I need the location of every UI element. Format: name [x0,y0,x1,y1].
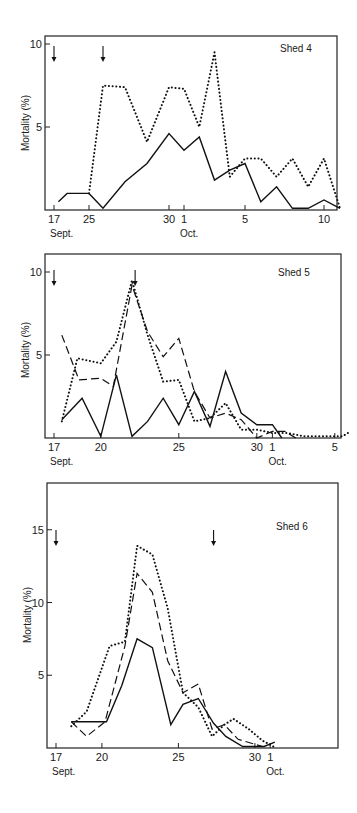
series-dotted-line [89,52,340,208]
plot-frame [45,36,337,210]
arrow-down-icon [52,46,57,62]
x-tick-label: 1 [181,213,187,225]
series-dotted-line [62,280,351,436]
month-label: Sept. [50,228,73,239]
month-label: Oct. [180,228,198,239]
y-tick-label: 10 [30,266,42,278]
y-tick-label: 5 [36,121,42,133]
y-tick-label: 5 [38,669,44,681]
month-label: Oct. [266,766,284,777]
panel-shed4: 51017Sept.25301Oct.510Mortality (%)Shed … [20,36,340,239]
arrow-down-icon [101,46,106,62]
x-tick-label: 1 [269,441,275,453]
panel-title: Shed 5 [278,267,310,278]
month-label: Sept. [50,456,73,467]
x-tick-label: 1 [267,751,273,763]
x-tick-label: 17 [48,213,60,225]
y-axis-label: Mortality (%) [22,587,33,643]
arrow-down-icon [54,530,59,546]
series-dotted-line [71,546,273,747]
x-tick-label: 30 [249,751,261,763]
y-tick-label: 15 [32,524,44,536]
panel-shed6: 5101517Sept.2025301Oct.Mortality (%)Shed… [22,483,338,777]
x-tick-label: 25 [172,751,184,763]
y-tick-label: 10 [30,38,42,50]
panel-title: Shed 6 [276,521,308,532]
x-tick-label: 5 [242,213,248,225]
panel-title: Shed 4 [280,43,312,54]
x-tick-label: 30 [163,213,175,225]
y-axis-label: Mortality (%) [20,322,31,378]
x-tick-label: 10 [318,213,330,225]
arrow-down-icon [52,270,57,286]
x-tick-label: 17 [50,751,62,763]
y-tick-label: 5 [36,349,42,361]
y-tick-label: 10 [32,597,44,609]
x-tick-label: 17 [48,441,60,453]
x-tick-label: 20 [95,441,107,453]
x-tick-label: 30 [251,441,263,453]
series-solid-line [71,639,274,747]
x-tick-label: 5 [332,441,338,453]
series-dashed-line [71,573,262,746]
x-tick-label: 25 [173,441,185,453]
panel-shed5: 51017Sept.2025301Oct.5Mortality (%)Shed … [20,254,350,467]
x-tick-label: 25 [83,213,95,225]
plot-frame [45,254,341,438]
series-solid-line [58,134,340,209]
arrow-down-icon [211,530,216,546]
y-axis-label: Mortality (%) [20,95,31,151]
month-label: Sept. [52,766,75,777]
mortality-figure: 51017Sept.25301Oct.510Mortality (%)Shed … [0,0,357,813]
x-tick-label: 20 [96,751,108,763]
arrow-down-icon [133,270,138,286]
month-label: Oct. [268,456,286,467]
